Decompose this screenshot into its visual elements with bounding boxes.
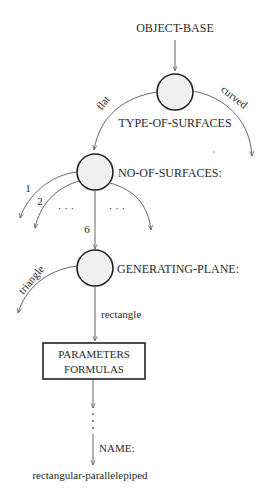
stray-dot <box>213 151 214 152</box>
ellipsis-left: · · · <box>58 202 75 214</box>
edge-label-2: 2 <box>37 195 43 207</box>
node-no-of-surfaces <box>77 154 113 190</box>
node-type-of-surfaces <box>157 74 193 110</box>
edge-label-6: 6 <box>84 223 90 235</box>
node-generating-plane <box>77 250 113 286</box>
box-line-1: PARAMETERS <box>58 348 130 360</box>
ellipsis-right: · · · <box>109 202 126 214</box>
edge-label-curved: curved <box>219 83 250 111</box>
vertical-ellipsis-dot-2 <box>92 420 94 422</box>
edge-label-1: 1 <box>25 182 31 194</box>
node-label-type-of-surfaces: TYPE-OF-SURFACES <box>118 116 231 130</box>
vertical-ellipsis-dot-1 <box>92 413 94 415</box>
result-label: rectangular-parallelepiped <box>32 469 148 481</box>
root-label: OBJECT-BASE <box>136 21 214 35</box>
box-line-2: FORMULAS <box>64 363 124 375</box>
edge-label-rectangle: rectangle <box>101 308 141 320</box>
decision-tree-diagram: OBJECT-BASE TYPE-OF-SURFACES flat curved… <box>0 0 265 492</box>
edge-label-flat: flat <box>94 93 112 112</box>
node-label-generating-plane: GENERATING-PLANE: <box>117 262 239 276</box>
edge-label-name: NAME: <box>99 442 134 454</box>
vertical-ellipsis-dot-3 <box>92 427 94 429</box>
node-label-no-of-surfaces: NO-OF-SURFACES: <box>118 166 222 180</box>
